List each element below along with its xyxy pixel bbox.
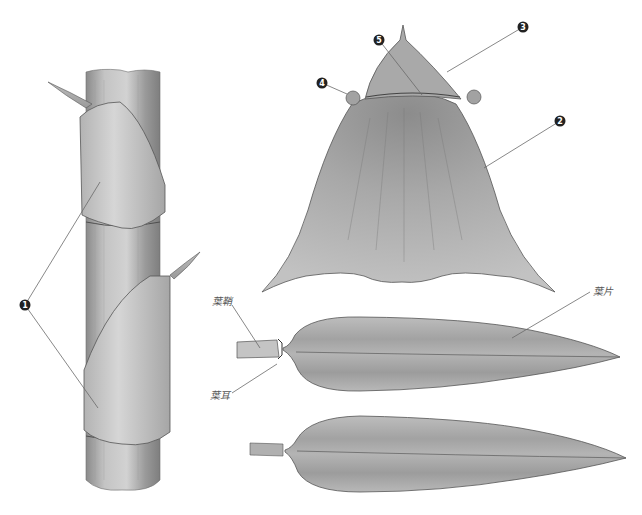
leaf-blade-lower — [285, 416, 626, 492]
label-leaf-sheath: 葉鞘 — [212, 297, 232, 307]
marker-2: 2 — [555, 116, 566, 127]
leaf-blade-upper — [283, 317, 620, 391]
marker-1: 1 — [20, 300, 31, 311]
leaf-sheath-stub — [237, 340, 279, 358]
marker-4: 4 — [317, 78, 328, 89]
leader-leaf-auricle — [232, 364, 277, 393]
marker-3: 3 — [518, 22, 529, 33]
isolated-culm-sheath — [262, 25, 555, 292]
leader-2 — [484, 121, 560, 168]
leader-3 — [447, 27, 523, 72]
label-leaf-blade: 葉片 — [593, 287, 613, 297]
leader-leaf-blade — [512, 292, 590, 338]
leaf-lower — [250, 416, 626, 492]
sheath-auricle-left — [346, 91, 360, 105]
bamboo-culm — [48, 69, 200, 490]
sheath-body — [262, 94, 555, 292]
label-leaf-auricle: 葉耳 — [210, 391, 230, 401]
marker-5: 5 — [374, 35, 385, 46]
sheath-auricle-right — [467, 90, 481, 104]
leaf-upper — [237, 317, 620, 391]
petiole — [250, 443, 283, 456]
sheath-blade-lower — [170, 252, 200, 279]
sheath-blade-upper — [48, 82, 92, 108]
